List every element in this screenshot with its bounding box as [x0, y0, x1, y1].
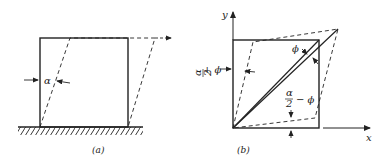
sheared-shape	[40, 38, 155, 127]
shear-strain-diagram: α (a) y x ϕ α 2 + ϕ α 2 − ϕ (b)	[0, 0, 389, 163]
x-axis-label: x	[366, 132, 372, 143]
phi-arrow-1	[302, 49, 307, 54]
caption-a: (a)	[92, 145, 105, 155]
ground-hatch	[18, 127, 143, 135]
bottom-angle-rest: − ϕ	[296, 94, 315, 105]
original-square	[40, 38, 128, 127]
bottom-angle-num: α	[286, 87, 293, 98]
left-angle-rest: + ϕ	[203, 64, 222, 75]
phi-arrow-2	[313, 58, 318, 64]
caption-b: (b)	[237, 145, 250, 155]
y-axis-label: y	[221, 9, 228, 20]
panel-a: α (a)	[18, 38, 171, 155]
panel-b: y x ϕ α 2 + ϕ α 2 − ϕ (b)	[192, 9, 372, 155]
alpha-arrow-right	[57, 81, 70, 83]
phi-label: ϕ	[292, 43, 299, 54]
bottom-angle-den: 2	[285, 98, 292, 109]
alpha-label: α	[44, 75, 51, 86]
deformed-diagonal	[233, 29, 338, 128]
